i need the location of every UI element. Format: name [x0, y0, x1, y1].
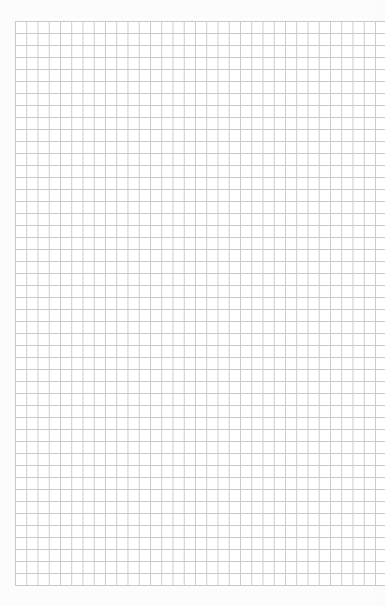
- grid-area: [15, 21, 385, 586]
